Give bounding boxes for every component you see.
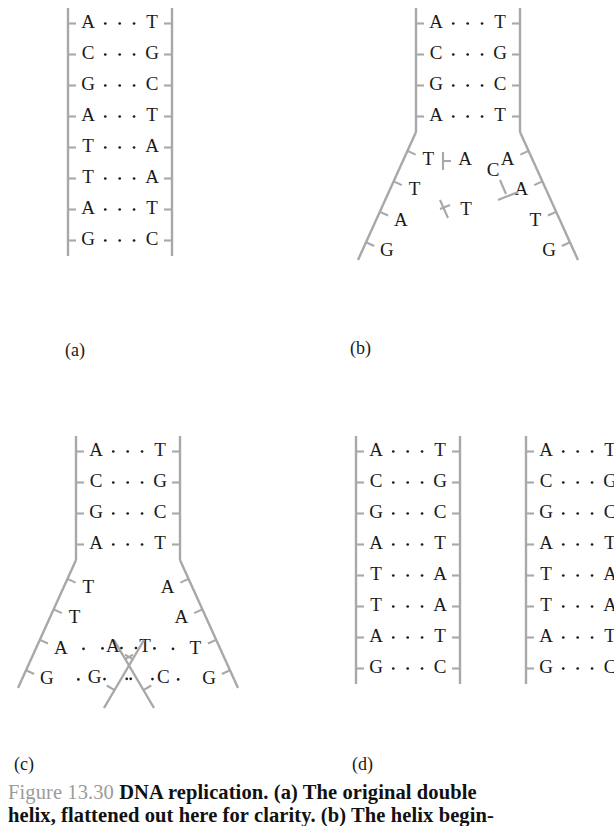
- base-left: A: [539, 439, 553, 460]
- hydrogen-bond-dot: [104, 84, 107, 87]
- base-right: C: [434, 501, 447, 522]
- hydrogen-bond-dot: [118, 84, 121, 87]
- base-right: G: [153, 470, 167, 491]
- hydrogen-bond-dot: [120, 647, 123, 650]
- base-right: T: [434, 625, 446, 646]
- base-template-right: T: [189, 637, 201, 658]
- panel-a-original-helix: ATCGGCATTATAATGC: [60, 4, 210, 264]
- base-right: G: [433, 470, 447, 491]
- hydrogen-bond-dot: [481, 84, 484, 87]
- hydrogen-bond-dot: [133, 115, 136, 118]
- base-right: A: [433, 563, 447, 584]
- base-right: C: [434, 656, 447, 677]
- hydrogen-bond-dot: [104, 115, 107, 118]
- hydrogen-bond-dot: [125, 677, 128, 680]
- hydrogen-bond-dot: [452, 115, 455, 118]
- hydrogen-bond-dot: [591, 481, 594, 484]
- hydrogen-bond-dot: [466, 22, 469, 25]
- base-left: G: [89, 501, 103, 522]
- figure-caption: Figure 13.30 DNA replication. (a) The or…: [8, 781, 608, 826]
- base-right: T: [154, 439, 166, 460]
- base-left: G: [539, 501, 553, 522]
- hydrogen-bond-dot: [481, 22, 484, 25]
- hydrogen-bond-dot: [118, 208, 121, 211]
- hydrogen-bond-dot: [576, 667, 579, 670]
- hydrogen-bond-dot: [104, 208, 107, 211]
- base-template-left: T: [409, 178, 421, 199]
- hydrogen-bond-dot: [421, 636, 424, 639]
- hydrogen-bond-dot: [151, 678, 154, 681]
- hydrogen-bond-dot: [112, 450, 115, 453]
- figure-number: Figure 13.30: [8, 781, 114, 803]
- base-template-left: G: [380, 239, 394, 260]
- hydrogen-bond-dot: [141, 481, 144, 484]
- hydrogen-bond-dot: [406, 481, 409, 484]
- base-template-right: A: [501, 148, 515, 169]
- base-right: G: [603, 470, 614, 491]
- base-left: A: [429, 104, 443, 125]
- base-left: C: [430, 42, 443, 63]
- base-right: T: [604, 625, 614, 646]
- hydrogen-bond-dot: [591, 636, 594, 639]
- hydrogen-bond-dot: [421, 543, 424, 546]
- hydrogen-bond-dot: [104, 177, 107, 180]
- base-left: A: [81, 11, 95, 32]
- hydrogen-bond-dot: [452, 53, 455, 56]
- hydrogen-bond-dot: [118, 146, 121, 149]
- hydrogen-bond-dot: [392, 605, 395, 608]
- hydrogen-bond-dot: [576, 605, 579, 608]
- hydrogen-bond-dot: [141, 512, 144, 515]
- base-left: A: [369, 625, 383, 646]
- hydrogen-bond-dot: [104, 22, 107, 25]
- hydrogen-bond-dot: [421, 605, 424, 608]
- panel-b-unwinding-helix: ATCGGCATTTAGAATGATC: [348, 4, 598, 294]
- hydrogen-bond-dot: [126, 512, 129, 515]
- base-left: A: [89, 532, 103, 553]
- hydrogen-bond-dot: [562, 636, 565, 639]
- base-template-right: G: [542, 239, 556, 260]
- hydrogen-bond-dot: [562, 605, 565, 608]
- base-right: T: [494, 11, 506, 32]
- base-left: C: [90, 470, 103, 491]
- hydrogen-bond-dot: [591, 450, 594, 453]
- hydrogen-bond-dot: [153, 647, 156, 650]
- hydrogen-bond-dot: [576, 512, 579, 515]
- base-left: T: [540, 563, 552, 584]
- panel-label-d: (d): [352, 754, 373, 775]
- base-new-right: G: [88, 666, 102, 687]
- base-right: T: [146, 197, 158, 218]
- base-left: C: [540, 470, 553, 491]
- hydrogen-bond-dot: [82, 647, 85, 650]
- hydrogen-bond-dot: [118, 177, 121, 180]
- base-right: T: [494, 104, 506, 125]
- hydrogen-bond-dot: [452, 84, 455, 87]
- free-nucleotide-t: T: [460, 198, 472, 219]
- base-template-left: T: [69, 606, 81, 627]
- base-right: T: [434, 532, 446, 553]
- hydrogen-bond-dot: [141, 543, 144, 546]
- base-right: A: [145, 166, 159, 187]
- hydrogen-bond-dot: [126, 450, 129, 453]
- hydrogen-bond-dot: [392, 481, 395, 484]
- hydrogen-bond-dot: [406, 450, 409, 453]
- hydrogen-bond-dot: [133, 53, 136, 56]
- base-left: C: [82, 42, 95, 63]
- hydrogen-bond-dot: [133, 208, 136, 211]
- base-left: A: [369, 532, 383, 553]
- hydrogen-bond-dot: [406, 605, 409, 608]
- base-right: C: [146, 73, 159, 94]
- hydrogen-bond-dot: [406, 667, 409, 670]
- hydrogen-bond-dot: [112, 481, 115, 484]
- base-left: A: [81, 197, 95, 218]
- hydrogen-bond-dot: [591, 574, 594, 577]
- base-left: C: [370, 470, 383, 491]
- free-nucleotide-a: A: [458, 148, 472, 169]
- base-right: G: [493, 42, 507, 63]
- base-left: G: [81, 73, 95, 94]
- hydrogen-bond-dot: [406, 636, 409, 639]
- panel-label-c: (c): [14, 754, 34, 775]
- hydrogen-bond-dot: [77, 678, 80, 681]
- hydrogen-bond-dot: [118, 22, 121, 25]
- hydrogen-bond-dot: [466, 53, 469, 56]
- hydrogen-bond-dot: [466, 84, 469, 87]
